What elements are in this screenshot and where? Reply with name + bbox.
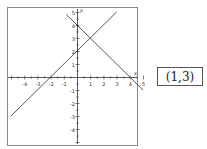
y-tick-label: -4 (70, 127, 75, 133)
x-tick-label: -3 (35, 81, 40, 87)
plot-line-1 (11, 12, 117, 116)
y-tick-label: -2 (70, 101, 75, 107)
x-tick-label: 5 (142, 81, 145, 87)
x-tick-label: 2 (102, 81, 105, 87)
y-tick-label: -3 (70, 114, 75, 120)
intercept-point (77, 25, 79, 27)
x-tick-label: -2 (49, 81, 54, 87)
x-tick-label: 1 (89, 81, 92, 87)
y-tick-label: 2 (72, 49, 75, 55)
y-tick-label: 5 (72, 10, 75, 16)
y-axis-label: y (79, 7, 84, 14)
y-tick-label: 4 (72, 23, 75, 29)
intercept-point (77, 51, 79, 53)
tick-labels: -4-3-2-112345-4-3-2-112345yx (22, 7, 145, 133)
y-tick-label: 3 (72, 36, 75, 42)
answer-box: (1,3) (157, 67, 203, 86)
answer-label: (1,3) (166, 70, 194, 84)
plot-lines (11, 12, 143, 116)
y-tick-label: 1 (72, 62, 75, 68)
x-tick-label: -1 (62, 81, 67, 87)
y-tick-label: -1 (70, 88, 75, 94)
x-axis-label: x (133, 70, 137, 76)
x-tick-label: 4 (129, 81, 132, 87)
axes (8, 9, 144, 144)
x-tick-label: -4 (22, 81, 27, 87)
coordinate-graph: -4-3-2-112345-4-3-2-112345yx (0, 0, 145, 149)
x-tick-label: 3 (116, 81, 119, 87)
